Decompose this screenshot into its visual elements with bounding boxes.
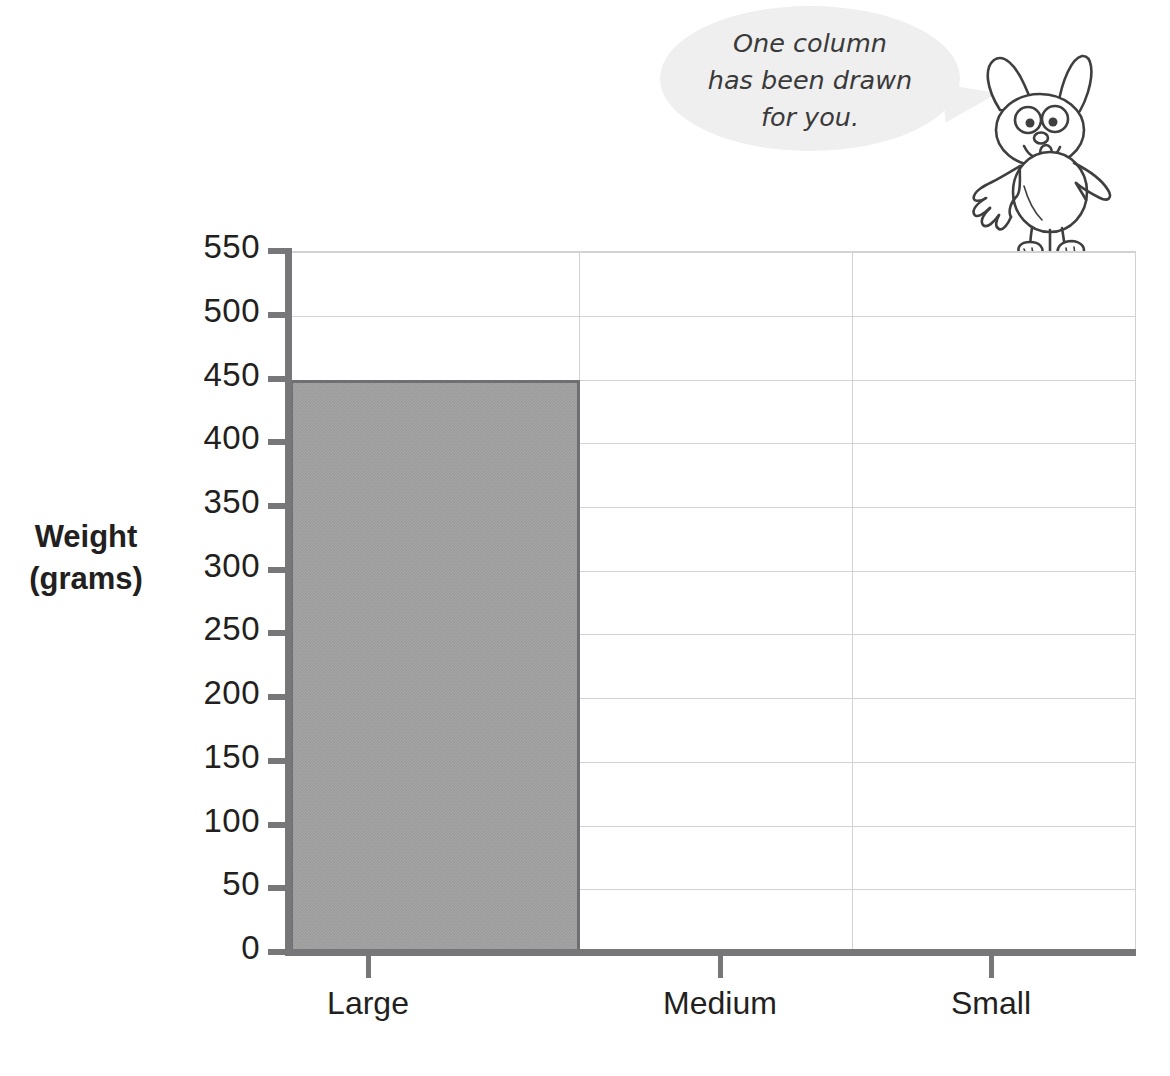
y-axis-tick — [268, 503, 288, 509]
y-axis-tick-label: 50 — [160, 865, 260, 903]
y-axis-tick — [268, 567, 288, 573]
y-axis-tick-labels: 550 500 450 400 350 300 250 200 150 100 … — [155, 0, 260, 1076]
y-axis-tick — [268, 822, 288, 828]
y-axis-tick — [268, 694, 288, 700]
x-axis-tick — [989, 956, 994, 978]
plot-area — [291, 251, 1136, 952]
gridline-horizontal — [291, 316, 1135, 317]
y-axis-tick-label: 250 — [160, 610, 260, 648]
y-axis-tick-label: 550 — [160, 228, 260, 266]
y-axis-tick-label: 100 — [160, 802, 260, 840]
x-axis-tick-label-medium: Medium — [570, 985, 870, 1022]
y-axis-tick — [268, 312, 288, 318]
gridline-vertical — [852, 252, 853, 952]
y-axis-tick-label: 200 — [160, 674, 260, 712]
bar-large — [290, 380, 580, 955]
y-axis-tick-label: 500 — [160, 292, 260, 330]
x-axis-tick-label-small: Small — [841, 985, 1141, 1022]
x-axis-tick-label-large: Large — [218, 985, 518, 1022]
x-axis-tick — [718, 956, 723, 978]
y-axis-tick — [268, 630, 288, 636]
gridline-horizontal — [291, 252, 1135, 253]
y-axis-tick — [268, 885, 288, 891]
y-axis-title-line-1: Weight — [0, 516, 172, 558]
y-axis-tick — [268, 248, 288, 254]
x-axis-line — [285, 949, 1136, 956]
y-axis-title: Weight (grams) — [0, 516, 172, 600]
y-axis-line — [285, 248, 292, 956]
y-axis-tick — [268, 758, 288, 764]
y-axis-tick-label: 450 — [160, 356, 260, 394]
y-axis-tick-label: 300 — [160, 547, 260, 585]
y-axis-tick — [268, 439, 288, 445]
y-axis-tick-label: 0 — [160, 929, 260, 967]
y-axis-tick-label: 150 — [160, 738, 260, 776]
y-axis-tick-label: 400 — [160, 419, 260, 457]
y-axis-tick — [268, 376, 288, 382]
y-axis-title-line-2: (grams) — [0, 558, 172, 600]
x-axis-tick — [366, 956, 371, 978]
bar-chart: Weight (grams) 550 500 450 400 — [0, 0, 1170, 1076]
y-axis-tick — [268, 949, 288, 955]
y-axis-tick-label: 350 — [160, 483, 260, 521]
